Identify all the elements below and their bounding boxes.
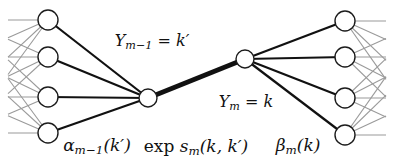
label-alpha-base: α [63, 135, 74, 155]
alpha-edge-1 [48, 57, 148, 98]
label-y-prev-sub: m−1 [125, 39, 152, 52]
state-node-right-2 [335, 88, 355, 108]
label-alpha-rest: (k′) [103, 135, 130, 155]
hub-node-y-prev [139, 89, 157, 107]
trellis-diagram: Ym−1 = k′ Ym = k αm−1(k′) exp sm(k, k′) … [0, 0, 393, 165]
label-exp-rest: (k, k′) [200, 136, 249, 156]
label-exp-base: s [174, 136, 188, 156]
state-node-right-3 [335, 125, 355, 145]
label-y-cur-sub: m [229, 100, 240, 113]
state-node-left-0 [38, 10, 58, 30]
bold-transition-edge [148, 59, 245, 98]
alpha-edge-2 [48, 97, 148, 98]
state-node-right-0 [335, 11, 355, 31]
state-node-left-1 [38, 47, 58, 67]
label-y-prev-rest: = k′ [152, 31, 189, 50]
label-alpha-message: αm−1(k′) [63, 137, 131, 157]
label-y-prev-equals-kprime: Ym−1 = k′ [115, 33, 190, 51]
label-beta-sub: m [285, 143, 296, 157]
label-y-cur-rest: = k [240, 92, 273, 111]
hub-node-y-cur [236, 50, 254, 68]
label-y-cur-equals-k: Ym = k [219, 94, 273, 112]
label-beta-rest: (k) [297, 135, 321, 155]
beta-edge-1 [245, 57, 345, 59]
label-y-prev-base: Y [115, 31, 126, 50]
state-node-left-3 [38, 123, 58, 143]
label-exp-score: exp sm(k, k′) [144, 138, 249, 158]
beta-edge-0 [245, 21, 345, 59]
label-beta-message: βm(k) [276, 137, 321, 157]
alpha-edge-3 [48, 98, 148, 133]
label-beta-base: β [276, 135, 286, 155]
label-exp-sub: m [188, 144, 199, 158]
alpha-edge-0 [48, 20, 148, 98]
label-exp-prefix: exp [144, 136, 175, 156]
label-alpha-sub: m−1 [75, 143, 104, 157]
state-node-right-1 [335, 47, 355, 67]
state-node-left-2 [38, 87, 58, 107]
label-y-cur-base: Y [219, 92, 230, 111]
